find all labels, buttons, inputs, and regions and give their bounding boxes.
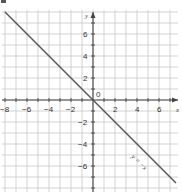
x-tick-label: 4 xyxy=(135,105,140,114)
y-tick-label: 4 xyxy=(83,52,88,61)
x-tick-label: −8 xyxy=(0,105,10,114)
y-axis-arrow-icon xyxy=(91,12,96,18)
y-axis-label: y xyxy=(84,12,89,20)
x-tick-label: −6 xyxy=(22,105,32,114)
x-tick-label: −4 xyxy=(44,105,54,114)
x-tick-label: 6 xyxy=(157,105,162,114)
y-tick-label: −2 xyxy=(78,118,88,127)
origin-label: 0 xyxy=(96,90,101,99)
y-tick-label: −4 xyxy=(78,140,88,149)
line-y-equals-neg-x xyxy=(5,12,176,183)
grid xyxy=(2,10,178,192)
x-axis-label: x xyxy=(175,106,180,114)
x-tick-label: 2 xyxy=(113,105,118,114)
x-axis-arrow-icon xyxy=(172,98,178,103)
y-tick-label: −6 xyxy=(78,162,88,171)
y-tick-label: 6 xyxy=(83,30,88,39)
x-tick-label: −2 xyxy=(66,105,76,114)
y-tick-label: 2 xyxy=(83,74,88,83)
graph: y x 0 −8 −6 −4 −2 2 4 6 6 4 2 −2 −4 −6 y… xyxy=(0,0,182,194)
